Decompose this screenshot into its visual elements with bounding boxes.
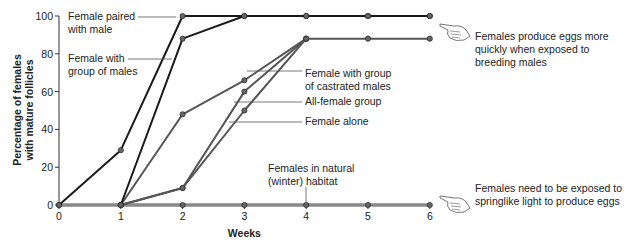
x-tick-label: 2 xyxy=(180,210,186,222)
x-axis-title: Weeks xyxy=(228,227,261,239)
data-point xyxy=(118,202,123,207)
y-tick-label: 40 xyxy=(41,123,53,135)
series-label: Female alone xyxy=(305,115,369,127)
data-point xyxy=(365,13,370,18)
y-axis-title: Percentage of femaleswith mature follicl… xyxy=(11,54,35,166)
y-tick-label: 80 xyxy=(41,48,53,60)
data-point xyxy=(242,202,247,207)
data-point xyxy=(180,185,185,190)
data-point xyxy=(180,112,185,117)
data-point xyxy=(242,13,247,18)
x-tick-label: 1 xyxy=(118,210,124,222)
pointing-hand-icon xyxy=(440,24,470,41)
y-tick-label: 60 xyxy=(41,86,53,98)
data-point xyxy=(427,202,432,207)
series-label: Female with groupof castrated males xyxy=(305,67,392,92)
series-lines xyxy=(56,13,432,207)
data-point xyxy=(427,13,432,18)
x-tick-label: 0 xyxy=(56,210,62,222)
y-tick-label: 100 xyxy=(35,10,53,22)
x-tick-label: 6 xyxy=(427,210,433,222)
x-tick-label: 5 xyxy=(365,210,371,222)
series-label: Female withgroup of males xyxy=(68,52,137,77)
data-point xyxy=(180,202,185,207)
series-label: All-female group xyxy=(305,95,382,107)
data-point xyxy=(118,148,123,153)
data-point xyxy=(56,202,61,207)
series-label: Females in natural(winter) habitat xyxy=(268,162,354,187)
annotation-text: Females need to be exposed tospringlike … xyxy=(475,182,622,207)
line-chart: 0204060801000123456WeeksPercentage of fe… xyxy=(0,0,629,242)
x-tick-label: 3 xyxy=(241,210,247,222)
x-tick-label: 4 xyxy=(303,210,309,222)
y-tick-label: 20 xyxy=(41,161,53,173)
annotation-text: Females produce eggs morequickly when ex… xyxy=(475,30,609,68)
data-point xyxy=(304,13,309,18)
data-point xyxy=(242,108,247,113)
data-point xyxy=(304,202,309,207)
series-label: Female pairedwith male xyxy=(67,10,135,35)
annotations: Females produce eggs morequickly when ex… xyxy=(440,24,622,213)
data-point xyxy=(304,36,309,41)
data-point xyxy=(365,202,370,207)
data-point xyxy=(365,36,370,41)
pointing-hand-icon xyxy=(440,196,470,213)
y-tick-label: 0 xyxy=(47,199,53,211)
data-point xyxy=(242,78,247,83)
data-point xyxy=(180,36,185,41)
data-point xyxy=(427,36,432,41)
data-point xyxy=(180,13,185,18)
data-point xyxy=(242,89,247,94)
